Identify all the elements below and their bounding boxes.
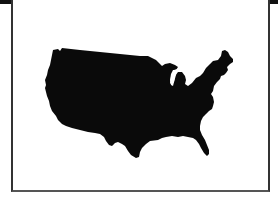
usa-silhouette bbox=[45, 48, 233, 158]
usa-silhouette-map bbox=[0, 0, 278, 204]
